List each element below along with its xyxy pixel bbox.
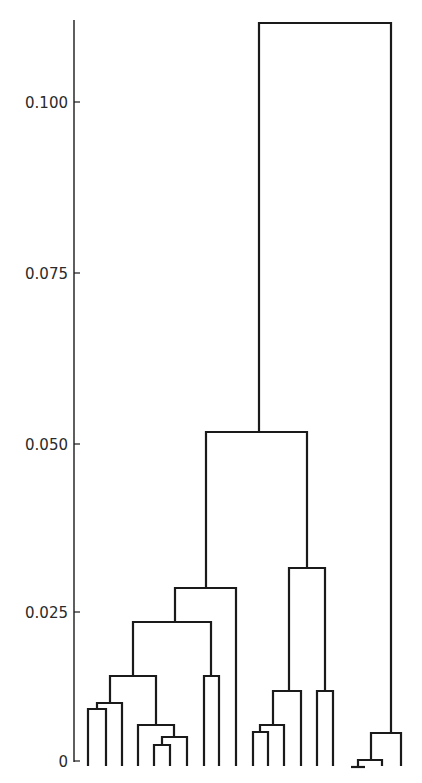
link-F xyxy=(110,676,156,725)
link-J xyxy=(253,732,268,766)
link-A xyxy=(88,709,106,766)
tick-label-0050: 0.050 xyxy=(25,436,68,454)
link-H xyxy=(133,622,211,676)
tick-label-0100: 0.100 xyxy=(25,94,68,112)
link-G xyxy=(204,676,219,766)
dendrogram-links xyxy=(88,23,401,767)
link-N xyxy=(317,691,333,766)
link-P xyxy=(206,432,307,588)
tick-label-0075: 0.075 xyxy=(25,265,68,283)
link-O xyxy=(289,568,325,691)
tick-label-0: 0 xyxy=(58,753,68,771)
dendrogram-chart: 0 0.025 0.050 0.075 0.100 xyxy=(0,0,422,783)
link-B xyxy=(97,703,122,766)
y-axis-labels: 0 0.025 0.050 0.075 0.100 xyxy=(25,94,68,771)
link-C xyxy=(154,745,170,766)
link-D xyxy=(162,737,187,766)
link-M xyxy=(273,691,301,766)
tick-label-0025: 0.025 xyxy=(25,604,68,622)
y-axis-ticks xyxy=(74,102,80,761)
